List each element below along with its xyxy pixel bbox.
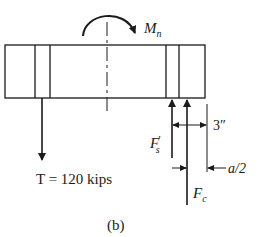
tension-label: T = 120 kips [36, 171, 112, 187]
member-section [5, 45, 205, 98]
concrete-force-label: Fc [192, 185, 207, 204]
moment-label: Mn [143, 20, 162, 39]
steel-force-label: F′s [149, 133, 161, 155]
moment-arrow-icon [83, 16, 135, 36]
dimension-3in-label: 3″ [213, 118, 226, 133]
dimension-a-half-label: a/2 [228, 161, 246, 176]
free-body-diagram: Mn T = 120 kips F′s Fc 3″ a/2 (b) [0, 0, 261, 237]
figure-caption: (b) [107, 217, 125, 234]
